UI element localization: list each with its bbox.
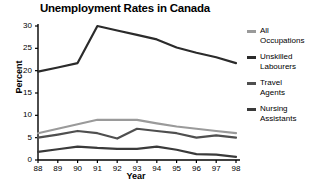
legend-item-unskilled-labourers[interactable]: Unskilled Labourers — [247, 52, 333, 71]
legend-label: All Occupations — [260, 26, 304, 45]
x-tick-label: 95 — [167, 165, 187, 173]
y-tick-label: 25 — [10, 44, 32, 52]
x-tick-label: 91 — [87, 165, 107, 173]
x-tick-label: 93 — [127, 165, 147, 173]
y-tick-label: 0 — [10, 156, 32, 164]
y-tick-label: 10 — [10, 111, 32, 119]
y-tick-label: 15 — [10, 89, 32, 97]
y-tick-label: 20 — [10, 67, 32, 75]
x-tick-label: 97 — [206, 165, 226, 173]
legend-item-travel-agents[interactable]: Travel Agents — [247, 78, 333, 97]
legend-item-nursing-assistants[interactable]: Nursing Assistants — [247, 104, 333, 123]
legend-swatch-icon — [247, 108, 256, 111]
legend-swatch-icon — [247, 56, 256, 59]
y-tick-label: 30 — [10, 22, 32, 30]
series-line-all-occupations — [38, 120, 236, 133]
legend-label: Travel Agents — [260, 78, 285, 97]
x-tick-label: 96 — [186, 165, 206, 173]
series-line-nursing-assistants — [38, 147, 236, 157]
chart-container: Unemployment Rates in Canada Percent Yea… — [0, 0, 333, 189]
chart-legend: All OccupationsUnskilled LabourersTravel… — [247, 26, 333, 130]
legend-label: Unskilled Labourers — [260, 52, 296, 71]
x-tick-label: 94 — [147, 165, 167, 173]
x-tick-label: 90 — [68, 165, 88, 173]
axes — [35, 24, 240, 163]
legend-label: Nursing Assistants — [260, 104, 296, 123]
legend-swatch-icon — [247, 30, 256, 33]
y-tick-label: 5 — [10, 134, 32, 142]
x-tick-label: 98 — [226, 165, 246, 173]
x-tick-label: 88 — [28, 165, 48, 173]
x-tick-label: 92 — [107, 165, 127, 173]
data-series-group — [38, 26, 236, 157]
legend-swatch-icon — [247, 82, 256, 85]
x-tick-label: 89 — [48, 165, 68, 173]
series-line-unskilled-labourers — [38, 26, 236, 72]
legend-item-all-occupations[interactable]: All Occupations — [247, 26, 333, 45]
